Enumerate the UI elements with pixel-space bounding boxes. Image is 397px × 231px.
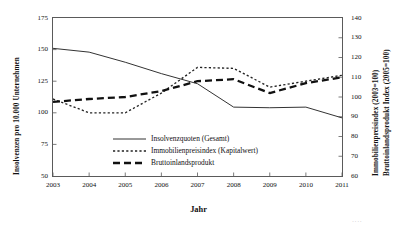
y-axis-left-tick-label: 50 [41, 172, 48, 180]
x-axis-tick-label: 2009 [263, 181, 277, 189]
y-axis-right-tick-label: 80 [351, 132, 358, 140]
legend-swatch-solid [113, 134, 146, 144]
y-axis-left-tick-label: 175 [38, 14, 49, 22]
x-axis-tick-label: 2010 [299, 181, 313, 189]
y-axis-right-tick-label: 100 [351, 93, 362, 101]
x-axis-tick-label: 2007 [191, 181, 205, 189]
y-axis-left-tick-label: 150 [38, 45, 49, 53]
legend-item: Bruttoinlandsprodukt [113, 157, 258, 169]
y-axis-right-tick-label: 120 [351, 53, 362, 61]
legend-item: Immobilienpreisindex (Kapitalwert) [113, 145, 258, 157]
x-axis-tick-label: 2003 [46, 181, 60, 189]
y-axis-right-tick-label: 90 [351, 112, 358, 120]
x-axis-tick-label: 2006 [154, 181, 168, 189]
legend-label: Insolvenzquoten (Gesamt) [151, 133, 229, 145]
series-line [53, 67, 342, 112]
x-axis-tick-label: 2004 [82, 181, 96, 189]
legend-swatch-dashed [113, 158, 146, 168]
y-axis-left-tick-label: 125 [38, 77, 49, 85]
y-axis-right-tick-label: 110 [351, 73, 361, 81]
series-line [53, 48, 342, 118]
y-axis-right-tick-label: 60 [351, 172, 358, 180]
x-axis-tick-label: 2011 [335, 181, 349, 189]
y-axis-left-tick-label: 75 [41, 140, 48, 148]
y-axis-right-tick-label: 140 [351, 14, 362, 22]
y-axis-right-tick-label: 130 [351, 33, 362, 41]
y-axis-right-title-bruttoinlandsprodukt: Bruttoinlandsprodukt Index (2005=100) [383, 49, 391, 176]
series-line [53, 77, 342, 102]
x-axis-title: Jahr [0, 205, 397, 214]
legend-item: Insolvenzquoten (Gesamt) [113, 133, 258, 145]
chart-figure: Insolvenzen pro 10.000 Unternehmen Immob… [0, 0, 397, 231]
legend-label: Bruttoinlandsprodukt [151, 157, 214, 169]
legend-label: Immobilienpreisindex (Kapitalwert) [151, 145, 258, 157]
y-axis-right-title-immobilienpreisindex: Immobilienpreisindex (2003=100) [372, 70, 380, 176]
legend: Insolvenzquoten (Gesamt)Immobilienpreisi… [113, 133, 258, 170]
page-artifact-dots: ···· [352, 219, 362, 225]
x-axis-tick-label: 2008 [227, 181, 241, 189]
y-axis-left-tick-label: 100 [38, 108, 49, 116]
legend-swatch-dotted [113, 146, 146, 156]
y-axis-right-tick-label: 70 [351, 152, 358, 160]
x-axis-tick-label: 2005 [118, 181, 132, 189]
y-axis-left-title: Insolvenzen pro 10.000 Unternehmen [13, 57, 21, 175]
